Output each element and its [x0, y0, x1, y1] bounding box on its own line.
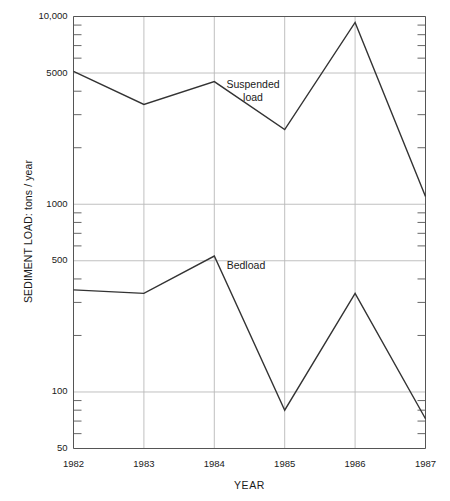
x-tick-label: 1983 — [114, 458, 174, 469]
series-line-suspended-load — [74, 22, 426, 196]
x-tick-label: 1985 — [255, 458, 315, 469]
y-tick-label: 50 — [57, 442, 68, 453]
series-line-bedload — [74, 256, 426, 419]
annotation-line-2: load — [193, 91, 313, 104]
x-axis-title: YEAR — [190, 479, 310, 491]
y-tick-label: 1000 — [46, 198, 67, 209]
annotation-line-1: Bedload — [186, 259, 306, 272]
sediment-load-chart-figure: SEDIMENT LOAD: tons / year 10,0005000100… — [0, 0, 450, 501]
x-tick-label: 1986 — [325, 458, 385, 469]
x-tick-label: 1982 — [44, 458, 104, 469]
series-annotation-suspended-load: Suspendedload — [193, 78, 313, 104]
annotation-line-1: Suspended — [193, 78, 313, 91]
y-tick-label: 5000 — [46, 67, 67, 78]
y-tick-label: 500 — [52, 254, 68, 265]
series-annotation-bedload: Bedload — [186, 259, 306, 272]
plot-area — [0, 0, 450, 501]
y-tick-label: 10,000 — [38, 10, 67, 21]
x-tick-label: 1987 — [396, 458, 450, 469]
x-tick-label: 1984 — [184, 458, 244, 469]
y-tick-label: 100 — [52, 385, 68, 396]
